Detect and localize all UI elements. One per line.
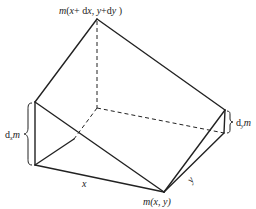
edge-right-vertical	[224, 110, 225, 133]
hidden-edge-inner-right	[97, 108, 224, 133]
hidden-edge-inner-left	[74, 108, 97, 139]
right-dym-label: dym	[236, 117, 251, 129]
prism-diagram: m(x+ dx, y+dy ) dxm dym x y m(x, y)	[0, 0, 256, 209]
edge-x-label: x	[81, 178, 87, 189]
edge-apex-right	[97, 19, 225, 110]
top-vertex-label: m(x+ dx, y+dy )	[59, 5, 122, 17]
edge-right-top-to-bottom-vertex	[164, 110, 225, 192]
edge-left-bottom-to-inner	[35, 139, 74, 165]
right-brace	[227, 111, 233, 133]
left-brace	[24, 103, 32, 165]
bottom-vertex-label: m(x, y)	[143, 196, 171, 208]
edge-apex-left	[35, 19, 97, 102]
left-dxm-label: dxm	[5, 129, 20, 141]
edge-y-label: y	[184, 174, 196, 186]
